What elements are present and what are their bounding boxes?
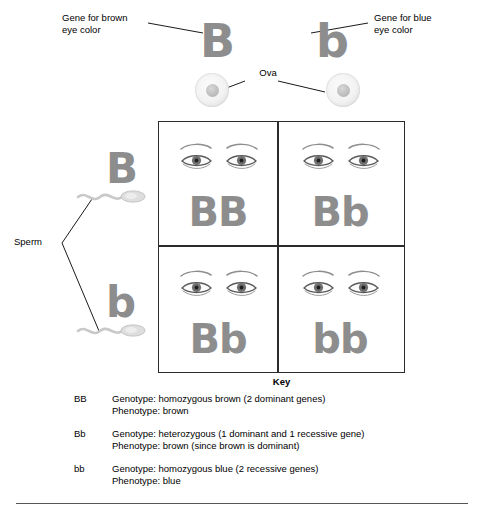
callout-brown-gene: Gene for brown eye color (62, 12, 150, 35)
key-entry-code: Bb (74, 428, 86, 440)
key-entry-code: BB (74, 393, 87, 405)
eyes-icon (177, 267, 261, 301)
key-entry-description: Genotype: homozygous blue (2 recessive g… (112, 463, 452, 487)
punnett-cell-Bb-top: Bb (279, 122, 404, 245)
callout-blue-gene: Gene for blue eye color (374, 12, 474, 35)
sperm-leader-line-bottom (62, 243, 99, 331)
eyes-icon (299, 140, 383, 174)
ovum-B (195, 73, 229, 107)
callout-ova: Ova (248, 67, 288, 79)
eyes-icon (299, 267, 383, 301)
key-entry-code: bb (74, 463, 85, 475)
ovum-nucleus (337, 84, 350, 97)
parent-allele-B: B (200, 18, 234, 64)
sperm-allele-B: B (106, 148, 137, 190)
callout-sperm: Sperm (14, 236, 62, 248)
ovum-nucleus (206, 84, 219, 97)
key-title: Key (158, 376, 405, 387)
punnett-cell-genotype: Bb (159, 319, 277, 359)
punnett-cell-genotype: Bb (279, 192, 401, 232)
ova-leader-line-right (278, 81, 325, 92)
punnett-square-figure: Gene for brown eye color Gene for blue e… (0, 0, 484, 515)
ovum-b (326, 73, 360, 107)
key-entry-description: Genotype: homozygous brown (2 dominant g… (112, 393, 452, 417)
parent-allele-b: b (316, 18, 348, 64)
brown-gene-leader-line (148, 23, 203, 33)
sperm-allele-b: b (106, 282, 135, 324)
bottom-divider (16, 503, 468, 504)
eyes-icon (177, 140, 261, 174)
punnett-cell-Bb-bottom: Bb (159, 247, 277, 372)
punnett-cell-genotype: bb (279, 319, 401, 359)
punnett-cell-bb: bb (279, 247, 404, 372)
punnett-cell-BB: BB (159, 122, 277, 245)
punnett-cell-genotype: BB (159, 192, 277, 232)
key-entry-description: Genotype: heterozygous (1 dominant and 1… (112, 428, 452, 452)
